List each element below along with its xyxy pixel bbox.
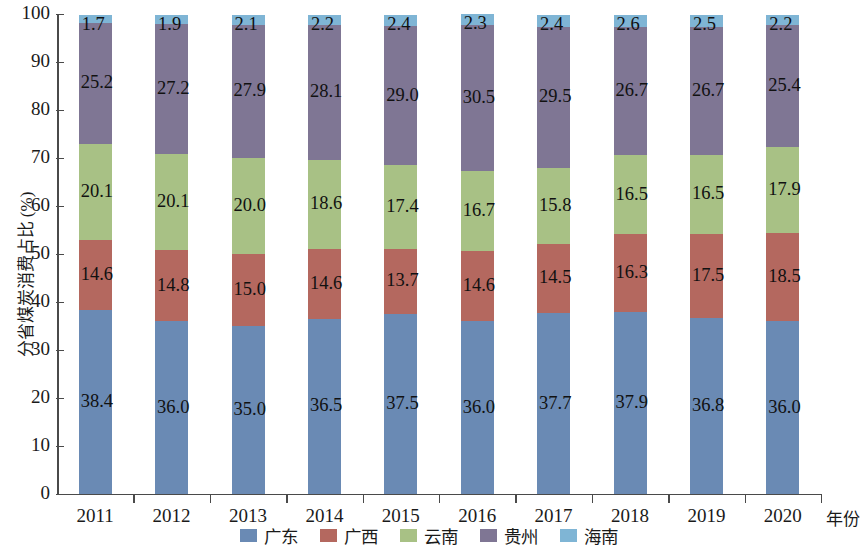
- legend-swatch-icon: [480, 529, 497, 542]
- bar-segment[interactable]: 16.5: [614, 155, 647, 234]
- bar-value-label: 16.3: [616, 263, 649, 282]
- bar-segment[interactable]: 2.1: [232, 15, 265, 25]
- bar-segment[interactable]: 16.5: [690, 155, 723, 234]
- bar-stack[interactable]: 36.018.517.925.42.2: [766, 15, 799, 495]
- bar-segment[interactable]: 1.7: [79, 15, 112, 23]
- bar-segment[interactable]: 26.7: [614, 27, 647, 155]
- bar-segment[interactable]: 36.5: [308, 319, 341, 494]
- x-tick-mark: [821, 494, 822, 503]
- legend-item[interactable]: 海南: [560, 523, 618, 547]
- bar-segment[interactable]: 17.9: [766, 147, 799, 233]
- y-tick-label: 10: [31, 434, 50, 456]
- bar-segment[interactable]: 28.1: [308, 25, 341, 160]
- bar-segment[interactable]: 36.8: [690, 318, 723, 494]
- bar-segment[interactable]: 2.2: [308, 15, 341, 26]
- x-tick-mark: [210, 494, 211, 503]
- bar-stack[interactable]: 36.014.820.127.21.9: [155, 15, 188, 495]
- bar-segment[interactable]: 25.4: [766, 25, 799, 147]
- bar-value-label: 16.5: [616, 185, 649, 204]
- bar-segment[interactable]: 27.9: [232, 25, 265, 159]
- bar-segment[interactable]: 1.9: [155, 15, 188, 24]
- bar-segment[interactable]: 14.8: [155, 250, 188, 321]
- bar-segment[interactable]: 14.6: [461, 251, 494, 321]
- bar-segment[interactable]: 35.0: [232, 326, 265, 494]
- bar-stack[interactable]: 37.714.515.829.52.4: [537, 15, 570, 495]
- x-tick-mark: [745, 494, 746, 503]
- legend-item[interactable]: 广东: [240, 523, 298, 547]
- bar-stack[interactable]: 37.513.717.429.02.4: [384, 15, 417, 495]
- legend-item[interactable]: 云南: [400, 523, 458, 547]
- bar-segment[interactable]: 37.7: [537, 313, 570, 494]
- bar-segment[interactable]: 36.0: [155, 321, 188, 494]
- bar-segment[interactable]: 14.6: [79, 240, 112, 310]
- bar-stack[interactable]: 37.916.316.526.72.6: [614, 15, 647, 495]
- x-tick-mark: [515, 494, 516, 503]
- bar-segment[interactable]: 14.5: [537, 244, 570, 314]
- bar-segment[interactable]: 16.7: [461, 171, 494, 251]
- bar-value-label: 36.0: [768, 398, 801, 417]
- bar-segment[interactable]: 2.6: [614, 15, 647, 27]
- y-tick-mark: [56, 62, 64, 63]
- legend-label: 海南: [584, 523, 618, 547]
- bar-value-label: 18.6: [310, 194, 343, 213]
- bar-segment[interactable]: 38.4: [79, 310, 112, 494]
- bar-segment[interactable]: 20.0: [232, 158, 265, 254]
- y-tick-mark: [56, 254, 64, 255]
- bar-segment[interactable]: 2.2: [766, 15, 799, 26]
- bar-segment[interactable]: 25.2: [79, 23, 112, 144]
- bar-stack[interactable]: 36.817.516.526.72.5: [690, 15, 723, 495]
- bar-value-label: 15.8: [539, 196, 572, 215]
- bar-segment[interactable]: 2.4: [537, 15, 570, 27]
- bar-value-label: 29.0: [386, 86, 419, 105]
- bar-segment[interactable]: 37.5: [384, 314, 417, 494]
- y-tick-label: 0: [41, 482, 51, 504]
- bar-value-label: 13.7: [386, 271, 419, 290]
- legend-swatch-icon: [560, 529, 577, 542]
- bar-segment[interactable]: 29.0: [384, 26, 417, 165]
- bar-segment[interactable]: 26.7: [690, 27, 723, 155]
- bar-segment[interactable]: 17.5: [690, 234, 723, 318]
- bar-segment[interactable]: 29.5: [537, 27, 570, 168]
- bar-segment[interactable]: 20.1: [79, 144, 112, 240]
- bar-segment[interactable]: 36.0: [461, 321, 494, 494]
- bar-segment[interactable]: 13.7: [384, 249, 417, 315]
- bar-value-label: 35.0: [234, 400, 267, 419]
- x-tick-mark: [668, 494, 669, 503]
- bar-value-label: 16.5: [692, 184, 725, 203]
- bar-segment[interactable]: 37.9: [614, 312, 647, 494]
- bar-segment[interactable]: 2.4: [384, 15, 417, 27]
- bar-value-label: 20.0: [234, 196, 267, 215]
- bar-stack[interactable]: 36.514.618.628.12.2: [308, 15, 341, 495]
- bar-segment[interactable]: 15.0: [232, 254, 265, 326]
- bar-value-label: 2.6: [617, 15, 650, 34]
- bar-value-label: 36.0: [463, 398, 496, 417]
- bar-value-label: 17.5: [692, 266, 725, 285]
- bar-stack[interactable]: 36.014.616.730.52.3: [461, 15, 494, 495]
- legend-item[interactable]: 贵州: [480, 523, 538, 547]
- bar-segment[interactable]: 2.5: [690, 15, 723, 27]
- bar-segment[interactable]: 15.8: [537, 168, 570, 244]
- bar-segment[interactable]: 14.6: [308, 249, 341, 319]
- bar-segment[interactable]: 2.3: [461, 14, 494, 25]
- bar-segment[interactable]: 18.5: [766, 233, 799, 322]
- bar-value-label: 14.6: [81, 265, 114, 284]
- y-tick-mark: [56, 302, 64, 303]
- bar-value-label: 37.5: [386, 394, 419, 413]
- bar-segment[interactable]: 27.2: [155, 24, 188, 154]
- bar-segment[interactable]: 20.1: [155, 154, 188, 250]
- y-tick-label: 80: [31, 98, 50, 120]
- bar-segment[interactable]: 36.0: [766, 321, 799, 494]
- bar-segment[interactable]: 30.5: [461, 25, 494, 171]
- bar-segment[interactable]: 16.3: [614, 234, 647, 312]
- bar-segment[interactable]: 18.6: [308, 160, 341, 249]
- bar-value-label: 27.2: [157, 79, 190, 98]
- bar-value-label: 15.0: [234, 280, 267, 299]
- y-tick-label: 50: [31, 242, 50, 264]
- bar-stack[interactable]: 35.015.020.027.92.1: [232, 15, 265, 495]
- bar-value-label: 14.6: [310, 274, 343, 293]
- bar-stack[interactable]: 38.414.620.125.21.7: [79, 15, 112, 495]
- bar-segment[interactable]: 17.4: [384, 165, 417, 248]
- y-tick-mark: [56, 398, 64, 399]
- legend-item[interactable]: 广西: [320, 523, 378, 547]
